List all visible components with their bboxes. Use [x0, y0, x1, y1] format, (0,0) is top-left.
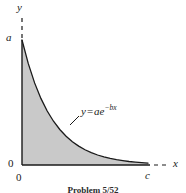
equation-operator: = — [86, 105, 94, 117]
equation-exponent: −bx — [105, 103, 117, 112]
shaded-area-under-curve — [22, 40, 148, 165]
y-tick-label-zero: 0 — [8, 158, 14, 169]
equation-leader-line — [70, 116, 79, 125]
exponential-decay-figure: y x a c 0 0 y=ae−bx Problem 5/52 — [0, 0, 186, 193]
y-axis-label: y — [17, 2, 22, 13]
curve-equation-label: y=ae−bx — [81, 104, 117, 117]
origin-label-zero: 0 — [16, 172, 22, 183]
equation-coefficient: ae — [94, 105, 104, 117]
plot-canvas — [0, 0, 186, 193]
figure-caption: Problem 5/52 — [0, 186, 186, 193]
x-tick-label-c: c — [145, 170, 150, 181]
y-tick-label-a: a — [6, 32, 12, 43]
x-axis-label: x — [173, 158, 178, 169]
